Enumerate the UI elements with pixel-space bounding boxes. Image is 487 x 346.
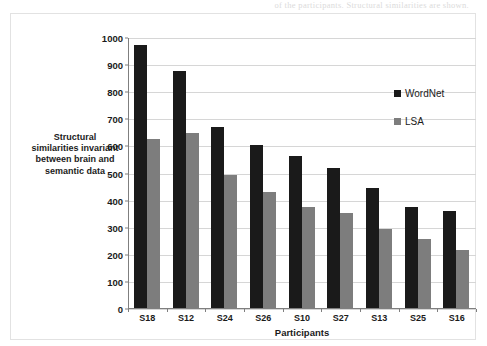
x-tick-mark xyxy=(476,309,477,312)
y-tick-label: 400 xyxy=(107,195,123,206)
bar-lsa-s12[interactable] xyxy=(186,133,199,309)
bar-wordnet-s27[interactable] xyxy=(327,168,340,309)
bar-lsa-s26[interactable] xyxy=(263,192,276,309)
x-tick-mark xyxy=(244,309,245,312)
bar-wordnet-s13[interactable] xyxy=(366,188,379,309)
bar-wordnet-s16[interactable] xyxy=(443,211,456,309)
x-tick-mark xyxy=(437,309,438,312)
y-tick-label: 1000 xyxy=(102,33,123,44)
legend-item-wordnet[interactable]: WordNet xyxy=(394,88,444,99)
legend-label: LSA xyxy=(405,116,424,127)
bar-wordnet-s10[interactable] xyxy=(289,156,302,309)
plot-inner: 10009008007006005004003002001000 S18S12S… xyxy=(128,38,476,309)
y-tick-label: 900 xyxy=(107,60,123,71)
bar-group xyxy=(283,38,322,309)
x-tick-mark xyxy=(167,309,168,312)
x-tick-mark xyxy=(321,309,322,312)
bar-group xyxy=(128,38,167,309)
gridline xyxy=(128,309,476,310)
bar-lsa-s24[interactable] xyxy=(224,175,237,309)
bar-wordnet-s24[interactable] xyxy=(211,127,224,309)
bar-lsa-s10[interactable] xyxy=(302,207,315,309)
bar-wordnet-s26[interactable] xyxy=(250,145,263,309)
bar-group xyxy=(205,38,244,309)
y-tick-label: 300 xyxy=(107,222,123,233)
y-tick-label: 0 xyxy=(118,304,123,315)
bar-group xyxy=(167,38,206,309)
plot-area: 10009008007006005004003002001000 S18S12S… xyxy=(128,38,476,309)
y-tick-label: 600 xyxy=(107,141,123,152)
x-tick-mark xyxy=(399,309,400,312)
bar-lsa-s13[interactable] xyxy=(379,229,392,309)
legend-swatch-wordnet-icon xyxy=(394,90,401,97)
x-tick-mark xyxy=(128,309,129,312)
bar-lsa-s27[interactable] xyxy=(340,213,353,309)
y-tick-label: 800 xyxy=(107,87,123,98)
bar-group xyxy=(360,38,399,309)
bar-lsa-s18[interactable] xyxy=(147,139,160,309)
x-axis-line xyxy=(128,308,476,310)
bar-group xyxy=(437,38,476,309)
x-tick-mark xyxy=(283,309,284,312)
y-tick-label: 500 xyxy=(107,168,123,179)
chart-container: Structural similarities invariant betwee… xyxy=(10,13,476,340)
legend-label: WordNet xyxy=(405,88,444,99)
bar-group xyxy=(399,38,438,309)
bar-wordnet-s18[interactable] xyxy=(134,45,147,309)
bar-lsa-s25[interactable] xyxy=(418,239,431,309)
bar-group xyxy=(321,38,360,309)
bar-wordnet-s25[interactable] xyxy=(405,207,418,309)
legend-item-lsa[interactable]: LSA xyxy=(394,116,444,127)
y-tick-label: 200 xyxy=(107,249,123,260)
bar-group xyxy=(244,38,283,309)
bar-lsa-s16[interactable] xyxy=(456,250,469,309)
x-tick-mark xyxy=(360,309,361,312)
x-axis-title: Participants xyxy=(128,327,476,338)
y-tick-label: 100 xyxy=(107,276,123,287)
y-tick-label: 700 xyxy=(107,114,123,125)
x-tick-label-s16: S16 xyxy=(434,313,480,323)
x-tick-mark xyxy=(205,309,206,312)
bar-wordnet-s12[interactable] xyxy=(173,71,186,309)
legend-swatch-lsa-icon xyxy=(394,118,401,125)
scan-artifact-text: of the participants. Structural similari… xyxy=(0,0,487,12)
chart-legend: WordNetLSA xyxy=(394,88,444,144)
